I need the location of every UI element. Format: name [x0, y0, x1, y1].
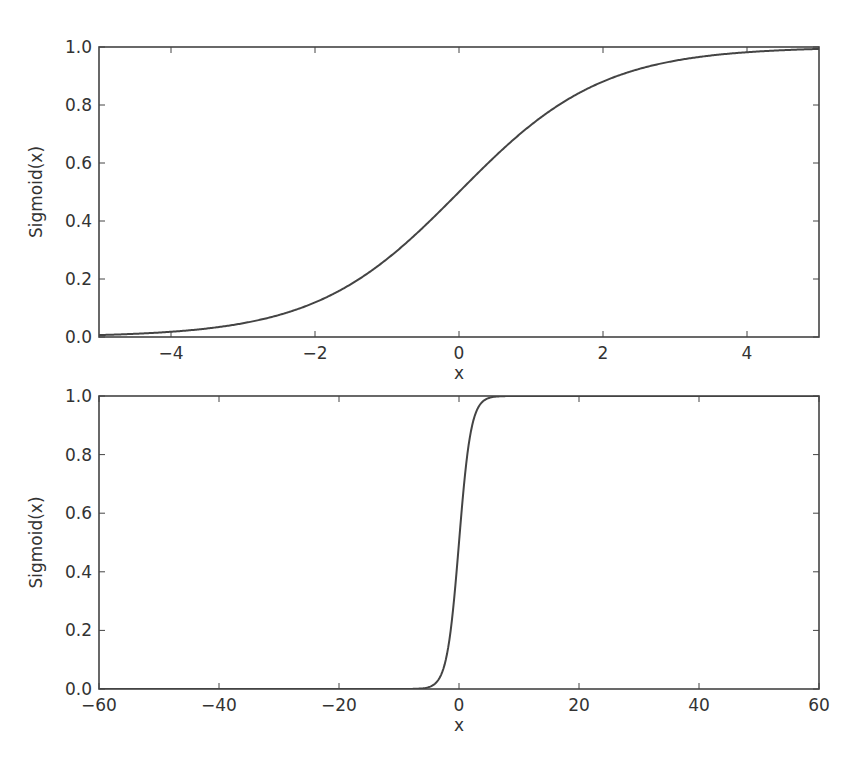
- x-tick-label: −20: [321, 695, 357, 715]
- y-tick-label: 0.2: [65, 269, 92, 289]
- bottom-subplot: −60−40−2002040600.00.20.40.60.81.0xSigmo…: [26, 386, 830, 735]
- y-tick-label: 0.4: [65, 562, 92, 582]
- y-tick-label: 1.0: [65, 37, 92, 57]
- sigmoid-curve: [99, 396, 819, 689]
- y-tick-label: 0.8: [65, 95, 92, 115]
- y-tick-label: 0.6: [65, 153, 92, 173]
- x-tick-label: 40: [688, 695, 710, 715]
- y-tick-label: 0.4: [65, 211, 92, 231]
- sigmoid-curve: [99, 49, 819, 335]
- sigmoid-figure: −4−20240.00.20.40.60.81.0xSigmoid(x) −60…: [0, 0, 855, 758]
- x-tick-label: 4: [742, 343, 753, 363]
- x-tick-label: 0: [454, 343, 465, 363]
- x-tick-label: −4: [158, 343, 183, 363]
- y-axis-label: Sigmoid(x): [26, 146, 46, 238]
- y-tick-label: 0.6: [65, 503, 92, 523]
- figure-canvas: −4−20240.00.20.40.60.81.0xSigmoid(x) −60…: [0, 0, 855, 758]
- x-tick-label: 20: [568, 695, 590, 715]
- x-tick-label: 60: [808, 695, 830, 715]
- y-tick-label: 1.0: [65, 386, 92, 406]
- top-subplot: −4−20240.00.20.40.60.81.0xSigmoid(x): [26, 37, 819, 383]
- y-tick-label: 0.2: [65, 620, 92, 640]
- x-axis-label: x: [454, 715, 464, 735]
- x-tick-label: 2: [598, 343, 609, 363]
- y-tick-label: 0.0: [65, 679, 92, 699]
- x-tick-label: 0: [454, 695, 465, 715]
- x-tick-label: −2: [302, 343, 327, 363]
- y-tick-label: 0.0: [65, 327, 92, 347]
- y-tick-label: 0.8: [65, 445, 92, 465]
- x-axis-label: x: [454, 363, 464, 383]
- y-axis-label: Sigmoid(x): [26, 496, 46, 588]
- x-tick-label: −40: [201, 695, 237, 715]
